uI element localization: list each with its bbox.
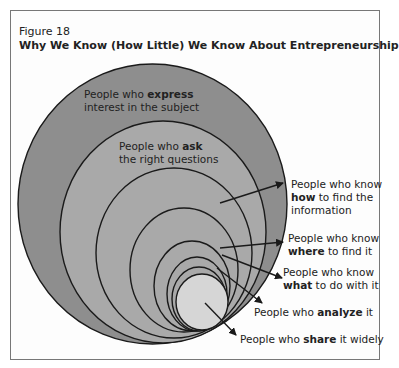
- label-where: People who know where to find it: [288, 232, 379, 258]
- label-what: People who know what to do with it: [283, 266, 379, 292]
- label-analyze: People who analyze it: [254, 306, 373, 319]
- label-share: People who share it widely: [240, 333, 384, 346]
- ring-share: [176, 274, 228, 330]
- label-ask: People who ask the right questions: [119, 140, 218, 166]
- label-express: People who express interest in the subje…: [84, 88, 199, 114]
- label-how: People who know how to find the informat…: [291, 178, 382, 217]
